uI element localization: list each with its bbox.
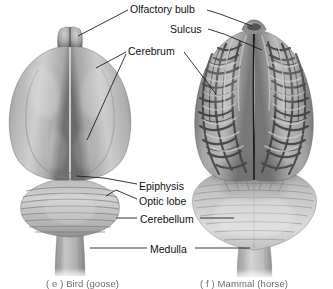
label-medulla: Medulla bbox=[150, 243, 187, 255]
bird-olfactory-bulb bbox=[58, 26, 83, 47]
mammal-cerebrum bbox=[195, 30, 314, 186]
label-optic-lobe: Optic lobe bbox=[139, 195, 186, 207]
label-cerebrum: Cerebrum bbox=[128, 45, 175, 57]
label-epiphysis: Epiphysis bbox=[139, 180, 184, 192]
caption-bird: ( e ) Bird (goose) bbox=[46, 278, 119, 289]
caption-mammal: ( f ) Mammal (horse) bbox=[200, 278, 288, 289]
label-sulcus: Sulcus bbox=[170, 23, 202, 35]
label-cerebellum: Cerebellum bbox=[140, 213, 194, 225]
label-olfactory-bulb: Olfactory bulb bbox=[130, 3, 195, 15]
